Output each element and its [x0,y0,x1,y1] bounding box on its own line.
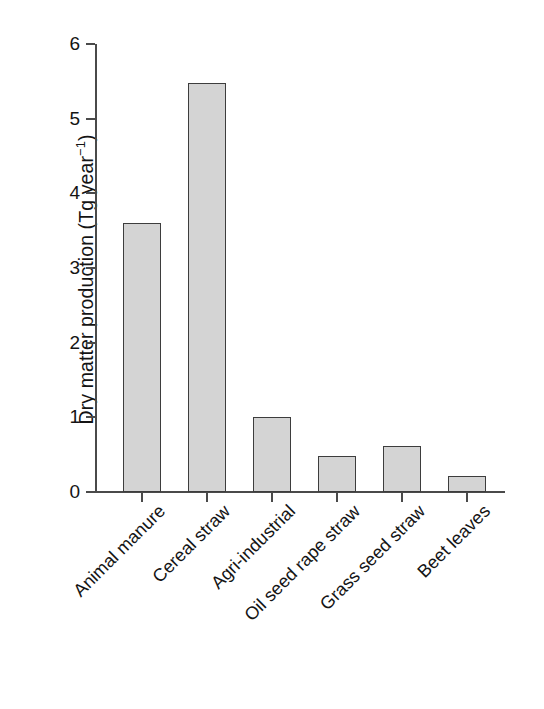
x-axis-label-animal-manure: Animal manure [70,502,168,600]
y-tick-label-0: 0 [42,482,80,501]
x-tick-mark-3 [336,493,338,502]
bar-animal-manure [123,223,161,492]
bar-beet-leaves [448,476,486,492]
y-axis-line [95,44,97,493]
bar-cereal-straw [188,83,226,492]
x-tick-mark-1 [206,493,208,502]
y-tick-label-4: 4 [42,183,80,202]
y-axis-title-suffix: ) [75,135,97,142]
y-tick-mark-4 [86,192,95,194]
y-tick-label-5: 5 [42,109,80,128]
x-tick-mark-5 [466,493,468,502]
y-axis-title-exponent: −1 [73,141,88,156]
y-tick-label-1: 1 [42,407,80,426]
x-tick-mark-2 [271,493,273,502]
y-tick-label-2: 2 [42,333,80,352]
x-axis-label-oil-seed-rape-straw: Oil seed rape straw [241,502,363,624]
x-tick-mark-4 [401,493,403,502]
y-tick-mark-3 [86,267,95,269]
bar-agri-industrial [253,417,291,492]
y-tick-mark-0 [86,491,95,493]
y-tick-mark-6 [86,43,95,45]
y-tick-mark-2 [86,342,95,344]
y-tick-mark-5 [86,118,95,120]
bar-grass-seed-straw [383,446,421,492]
y-tick-mark-1 [86,416,95,418]
y-tick-label-6: 6 [42,34,80,53]
y-tick-label-3: 3 [42,258,80,277]
x-tick-mark-0 [141,493,143,502]
bar-chart-figure: Dry matter production (Tg year−1) 6 5 4 … [0,0,544,709]
bar-oil-seed-rape-straw [318,456,356,492]
